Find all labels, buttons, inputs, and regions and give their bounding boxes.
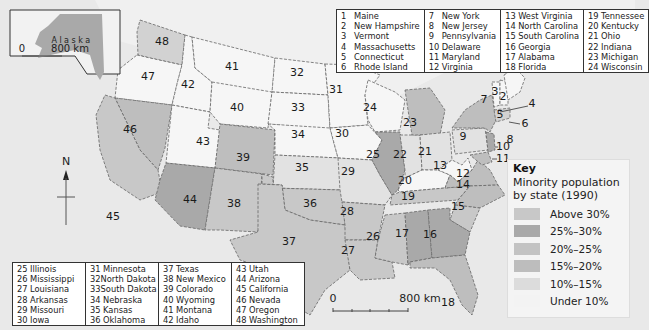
svg-text:42: 42 — [181, 78, 195, 91]
legend-col: 19Tennessee 20Kentucky 21Ohio 22Indiana … — [584, 10, 648, 72]
svg-text:25: 25 — [366, 148, 380, 161]
key-subtitle: Minority population by state (1990) — [513, 176, 629, 202]
svg-text:14: 14 — [456, 178, 470, 191]
svg-text:23: 23 — [403, 116, 417, 129]
legend-col: 7New York 8New Jersey 9Pennsylvania 10De… — [425, 10, 502, 72]
state-9 — [452, 128, 488, 154]
legend-col: 13West Virginia 14North Carolina 15South… — [501, 10, 584, 72]
legend-col: 37Texas 38New Mexico 39Colorado 40Wyomin… — [159, 263, 232, 325]
key-item: 20%–25% — [514, 240, 629, 258]
key-swatch — [514, 260, 540, 272]
svg-text:28: 28 — [340, 205, 354, 218]
svg-text:21: 21 — [418, 145, 432, 158]
svg-text:32: 32 — [290, 66, 304, 79]
svg-text:16: 16 — [423, 228, 437, 241]
svg-text:0: 0 — [19, 43, 25, 54]
svg-text:18: 18 — [441, 296, 455, 309]
legend-col: 25Illinois 26Mississippi 27Louisiana 28A… — [13, 263, 86, 325]
key-item: 10%–15% — [514, 275, 629, 293]
svg-text:48: 48 — [155, 35, 169, 48]
svg-text:33: 33 — [291, 101, 305, 114]
legend-col: 1Maine 2New Hampshire 3Vermont 4Massachu… — [337, 10, 425, 72]
svg-text:17: 17 — [395, 227, 409, 240]
key-item: Under 10% — [514, 293, 629, 311]
svg-text:800 km: 800 km — [399, 292, 441, 305]
key-swatch — [514, 295, 540, 307]
key-item: 25%–30% — [514, 223, 629, 241]
svg-text:39: 39 — [236, 151, 250, 164]
svg-text:27: 27 — [341, 244, 355, 257]
svg-text:35: 35 — [295, 161, 309, 174]
svg-text:13: 13 — [433, 159, 447, 172]
svg-text:7: 7 — [481, 93, 488, 106]
key-swatch — [514, 208, 540, 220]
state-legend-top: 1Maine 2New Hampshire 3Vermont 4Massachu… — [336, 9, 649, 73]
svg-text:45: 45 — [106, 210, 120, 223]
key-swatch — [514, 243, 540, 255]
svg-text:800 km: 800 km — [51, 43, 89, 54]
svg-text:2: 2 — [500, 90, 507, 103]
svg-text:44: 44 — [183, 193, 197, 206]
svg-text:41: 41 — [225, 60, 239, 73]
svg-text:29: 29 — [341, 165, 355, 178]
svg-text:26: 26 — [366, 230, 380, 243]
legend-col: 43Utah 44Arizona 45California 46Nevada 4… — [232, 263, 304, 325]
key-item: Above 30% — [514, 205, 629, 223]
svg-text:36: 36 — [303, 197, 317, 210]
svg-text:15: 15 — [451, 200, 465, 213]
svg-text:20: 20 — [398, 174, 412, 187]
map-key: Key Minority population by state (1990) … — [507, 159, 630, 318]
key-swatch — [514, 278, 540, 290]
svg-text:30: 30 — [335, 127, 349, 140]
svg-text:9: 9 — [460, 130, 467, 143]
svg-text:3: 3 — [492, 85, 499, 98]
state-legend-bottom: 25Illinois 26Mississippi 27Louisiana 28A… — [12, 262, 305, 326]
svg-text:46: 46 — [123, 123, 137, 136]
svg-text:34: 34 — [291, 128, 305, 141]
svg-text:22: 22 — [393, 148, 407, 161]
svg-text:4: 4 — [529, 97, 536, 110]
svg-text:40: 40 — [230, 101, 244, 114]
svg-text:31: 31 — [329, 83, 343, 96]
svg-text:43: 43 — [196, 135, 210, 148]
svg-text:5: 5 — [497, 108, 504, 121]
key-item: 15%–20% — [514, 258, 629, 276]
legend-col: 31Minnesota 32North Dakota 33South Dakot… — [86, 263, 159, 325]
svg-text:38: 38 — [227, 197, 241, 210]
svg-text:0: 0 — [330, 292, 337, 305]
svg-text:6: 6 — [522, 117, 529, 130]
key-title: Key — [513, 162, 629, 175]
key-swatch — [514, 225, 540, 237]
svg-text:19: 19 — [401, 190, 415, 203]
svg-text:N: N — [62, 155, 70, 168]
svg-text:24: 24 — [363, 101, 377, 114]
svg-text:47: 47 — [141, 70, 155, 83]
state-39 — [215, 124, 275, 175]
svg-text:37: 37 — [282, 235, 296, 248]
